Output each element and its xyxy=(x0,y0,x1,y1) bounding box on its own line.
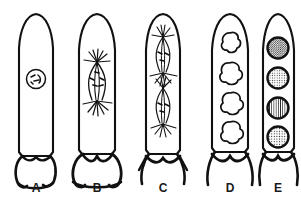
ascus-e-septum xyxy=(263,154,294,160)
ascus-e-ascospore-1 xyxy=(268,38,289,59)
ascus-stage-b xyxy=(73,14,121,187)
ascus-b-wall xyxy=(79,14,115,154)
ascus-stage-e xyxy=(259,14,298,185)
stage-label-e: E xyxy=(268,181,288,195)
ascus-a-nucleus xyxy=(27,70,46,89)
ascus-c-septum xyxy=(146,156,180,162)
ascus-e-ascospore-4 xyxy=(268,127,289,148)
ascus-stage-a xyxy=(16,14,56,188)
ascus-development-figure xyxy=(0,0,301,211)
stage-label-c: C xyxy=(153,181,173,195)
ascus-stage-c xyxy=(139,14,187,184)
ascus-a-septum xyxy=(23,157,50,160)
ascus-e-ascospore-3 xyxy=(268,98,289,119)
stage-label-d: D xyxy=(220,181,240,195)
ascus-d-septum xyxy=(212,154,248,161)
stage-label-a: A xyxy=(26,181,46,195)
ascus-e-ascospore-2 xyxy=(268,68,289,89)
ascus-stage-d xyxy=(207,14,252,185)
stage-label-b: B xyxy=(87,181,107,195)
ascus-b-septum xyxy=(83,155,112,161)
